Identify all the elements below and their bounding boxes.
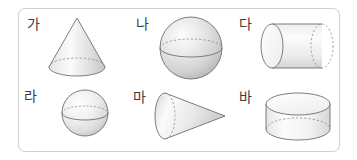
shape-label-6: 바	[239, 90, 252, 104]
cylinder-horizontal-icon	[259, 18, 335, 76]
geometry-figure-panel: 가 나	[18, 8, 340, 152]
shape-label-2: 나	[136, 17, 149, 31]
cone-icon	[41, 15, 113, 81]
shape-cell-1: 가	[19, 9, 126, 81]
shape-label-3: 다	[239, 17, 252, 31]
shape-label-5: 마	[133, 90, 146, 104]
shape-cell-2: 나	[126, 9, 233, 81]
shape-cell-6: 바	[233, 81, 341, 151]
sphere-icon	[157, 14, 225, 82]
shape-cell-5: 마	[126, 81, 233, 151]
cylinder-upright-icon	[261, 93, 335, 143]
shape-cell-4: 라	[19, 81, 126, 151]
sphere-small-icon	[59, 87, 111, 139]
shape-cell-3: 다	[233, 9, 341, 81]
shape-label-4: 라	[24, 89, 37, 103]
shape-label-1: 가	[27, 17, 40, 31]
cone-sideways-icon	[153, 85, 231, 147]
